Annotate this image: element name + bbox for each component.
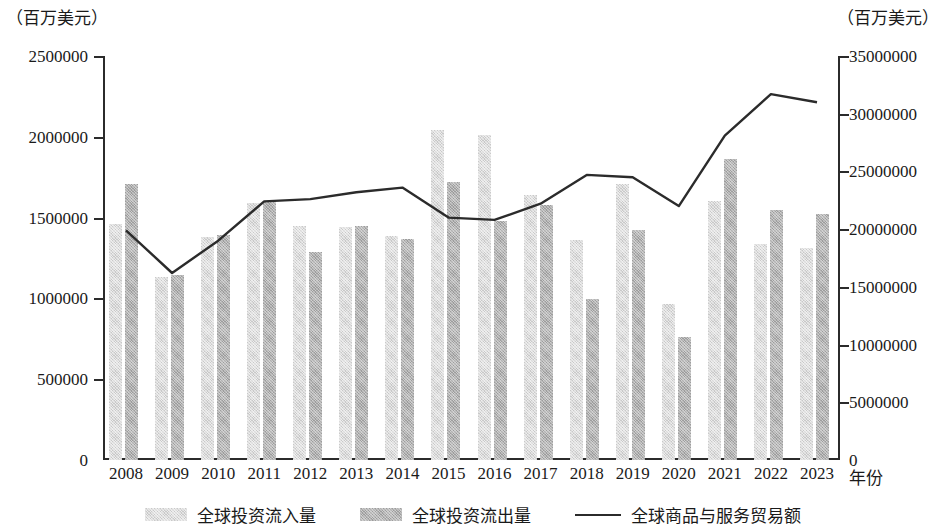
left-tick-mark xyxy=(94,137,103,139)
left-tick-label: 1500000 xyxy=(29,209,89,226)
right-axis-tick-labels: 5000000100000001500000020000000250000003… xyxy=(849,56,945,460)
x-tick-label: 2015 xyxy=(431,464,465,484)
x-tick-label: 2022 xyxy=(754,464,788,484)
x-tick-label: 2010 xyxy=(201,464,235,484)
right-tick-label: 15000000 xyxy=(849,278,917,295)
right-tick-mark xyxy=(840,229,849,231)
legend-item-trade: 全球商品与服务贸易额 xyxy=(575,502,801,527)
trade-line-series xyxy=(103,56,840,460)
left-axis-unit-label: （百万美元） xyxy=(6,4,108,29)
x-tick-label: 2023 xyxy=(800,464,834,484)
left-tick-label: 500000 xyxy=(37,371,88,388)
right-tick-label: 10000000 xyxy=(849,336,917,353)
right-tick-label: 5000000 xyxy=(849,394,909,411)
x-tick-label: 2013 xyxy=(339,464,373,484)
x-tick-label: 2014 xyxy=(385,464,419,484)
left-tick-label: 1000000 xyxy=(29,290,89,307)
legend-swatch-trade-line-icon xyxy=(575,514,621,516)
legend-item-outflow: 全球投资流出量 xyxy=(360,502,531,527)
right-tick-label: 35000000 xyxy=(849,48,917,65)
left-tick-label: 2500000 xyxy=(29,48,89,65)
right-tick-mark xyxy=(840,402,849,404)
x-tick-label: 2021 xyxy=(708,464,742,484)
right-tick-label: 25000000 xyxy=(849,163,917,180)
right-tick-mark xyxy=(840,345,849,347)
legend-item-inflow: 全球投资流入量 xyxy=(145,502,316,527)
plot-area xyxy=(103,56,840,460)
legend-swatch-outflow-icon xyxy=(360,508,402,521)
legend-label-trade: 全球商品与服务贸易额 xyxy=(631,502,801,527)
x-tick-label: 2020 xyxy=(662,464,696,484)
chart-page: （百万美元） （百万美元） 05000001000000150000020000… xyxy=(0,0,945,531)
x-axis-tick-labels: 2008200920102011201220132014201520162017… xyxy=(103,464,840,490)
right-tick-mark xyxy=(840,56,849,58)
left-tick-mark xyxy=(94,56,103,58)
right-tick-mark xyxy=(840,171,849,173)
legend-label-outflow: 全球投资流出量 xyxy=(412,502,531,527)
x-tick-label: 2018 xyxy=(570,464,604,484)
right-tick-mark xyxy=(840,287,849,289)
x-tick-label: 2019 xyxy=(616,464,650,484)
right-tick-label: 20000000 xyxy=(849,221,917,238)
left-axis-tick-labels: 05000001000000150000020000002500000 xyxy=(0,56,96,460)
chart-legend: 全球投资流入量 全球投资流出量 全球商品与服务贸易额 xyxy=(0,498,945,531)
left-tick-mark xyxy=(94,298,103,300)
left-tick-mark xyxy=(94,218,103,220)
right-tick-mark xyxy=(840,114,849,116)
x-tick-label: 2012 xyxy=(293,464,327,484)
x-tick-label: 2008 xyxy=(109,464,143,484)
legend-swatch-inflow-icon xyxy=(145,508,187,521)
x-tick-label: 2016 xyxy=(478,464,512,484)
left-tick-label: 0 xyxy=(80,452,89,469)
legend-label-inflow: 全球投资流入量 xyxy=(197,502,316,527)
right-axis-zero-label: 0 xyxy=(849,451,858,471)
left-tick-mark xyxy=(94,379,103,381)
right-tick-label: 30000000 xyxy=(849,105,917,122)
left-tick-label: 2000000 xyxy=(29,128,89,145)
x-tick-label: 2009 xyxy=(155,464,189,484)
right-axis-unit-label: （百万美元） xyxy=(837,4,939,29)
x-tick-label: 2011 xyxy=(248,464,281,484)
trade-line-path xyxy=(126,94,817,273)
x-tick-label: 2017 xyxy=(524,464,558,484)
